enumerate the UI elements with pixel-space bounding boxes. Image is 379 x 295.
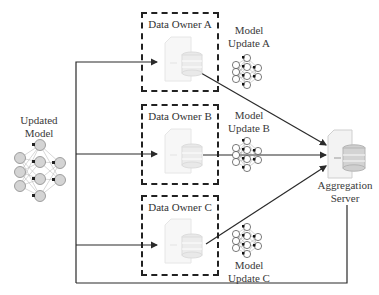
data-owner-b-label: Data Owner B	[143, 110, 217, 122]
data-owner-b-box: Data Owner B	[141, 104, 219, 185]
model-update-c-label: Model Update C	[224, 259, 274, 285]
data-owner-a-label: Data Owner A	[143, 18, 217, 30]
model-update-b-label: Model Update B	[224, 109, 274, 135]
aggregation-server-label: Aggregation Server	[312, 179, 378, 205]
model-update-c-network-icon	[232, 223, 261, 257]
model-update-a-network-icon	[232, 54, 261, 88]
model-update-a-label: Model Update A	[224, 24, 274, 50]
data-owner-a-box: Data Owner A	[141, 12, 219, 92]
updated-model-network-icon	[15, 140, 66, 202]
data-owner-c-label: Data Owner C	[143, 201, 217, 213]
data-owner-c-box: Data Owner C	[141, 195, 219, 276]
update-lines	[201, 73, 326, 244]
aggregation-server-icon	[328, 130, 365, 178]
updated-model-label: Updated Model	[14, 114, 64, 140]
